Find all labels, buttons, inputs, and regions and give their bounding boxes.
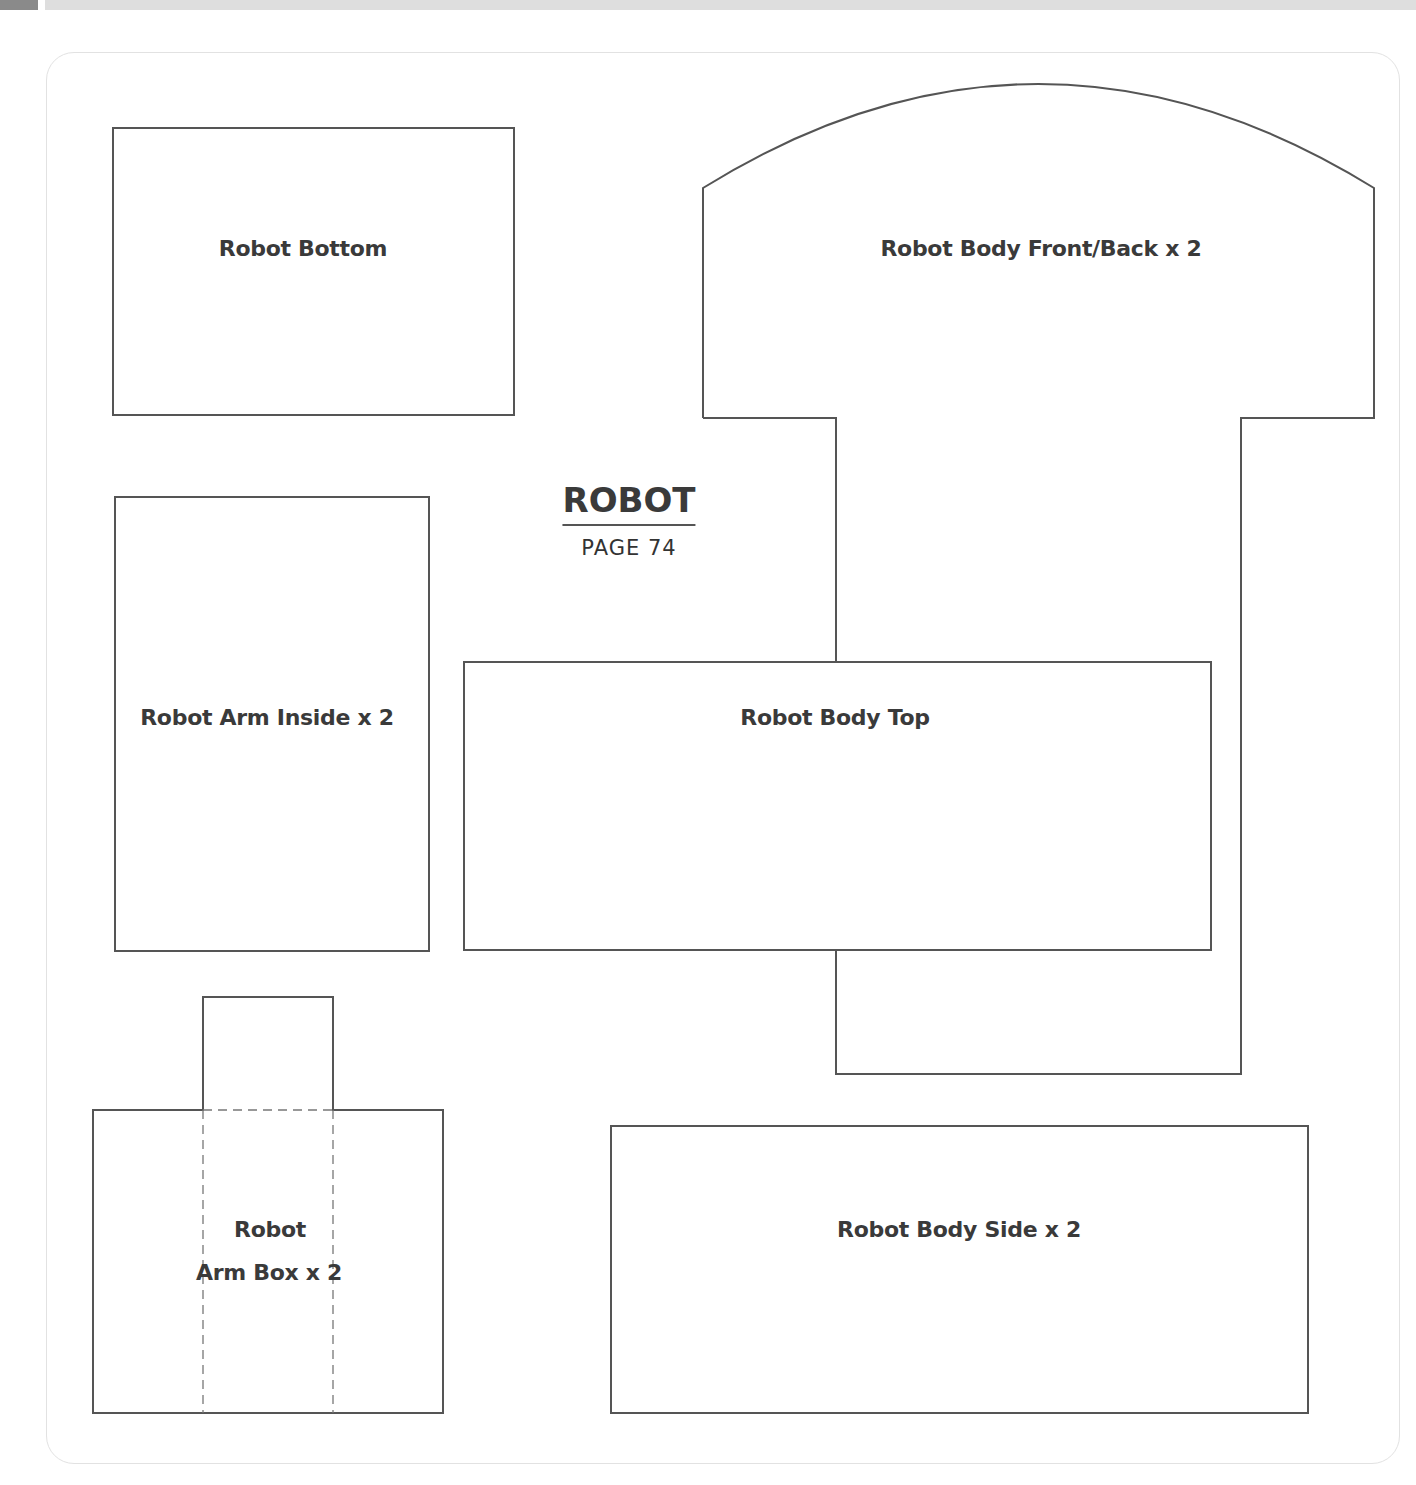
robot-arm-box-outline xyxy=(93,997,443,1413)
piece-label: Robot Body Front/Back x 2 xyxy=(880,236,1201,261)
page-reference: PAGE 74 xyxy=(562,536,695,560)
title-heading: ROBOT xyxy=(562,480,695,526)
robot-body-front-back-outline xyxy=(703,84,1374,1074)
piece-label: Robot xyxy=(234,1217,306,1242)
piece-label: Robot Body Top xyxy=(740,705,929,730)
piece-label: Robot Bottom xyxy=(219,236,387,261)
piece-label: Arm Box x 2 xyxy=(196,1260,342,1285)
piece-label: Robot Arm Inside x 2 xyxy=(140,705,394,730)
robot-body-side-outline xyxy=(611,1126,1308,1413)
piece-label: Robot Body Side x 2 xyxy=(837,1217,1081,1242)
template-title: ROBOT PAGE 74 xyxy=(562,480,695,560)
robot-bottom-outline xyxy=(113,128,514,415)
